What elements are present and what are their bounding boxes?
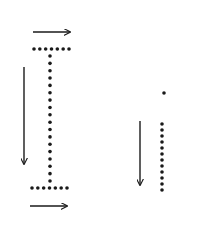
stem-dot [160,182,164,186]
stem-dot [48,98,52,102]
stem-dot [160,164,164,168]
top-bar-dot [67,47,71,51]
lowercase-i-letter [140,91,166,192]
stem-dot [48,172,52,176]
stroke-order-diagram [0,0,224,235]
uppercase-i-letter [24,32,71,206]
top-bar-dot [32,47,36,51]
stem-dot [160,122,164,126]
stem-dot [48,120,52,124]
stem-dot [48,69,52,73]
stem-dot [48,113,52,117]
stem-dot [160,158,164,162]
stem-dot [48,62,52,66]
stem-dot [160,170,164,174]
stem-dot [48,54,52,58]
stem-dot [48,135,52,139]
bottom-bar-dot [36,186,40,190]
top-bar-dot [38,47,42,51]
bottom-bar-dot [54,186,58,190]
stem-dot [160,140,164,144]
top-bar-dot [61,47,65,51]
stem-dot [160,134,164,138]
top-bar-dot [50,47,54,51]
bottom-bar-dot [65,186,69,190]
bottom-bar-dot [42,186,46,190]
bottom-bar-dot [30,186,34,190]
top-bar-dot [56,47,60,51]
stem-dot [48,84,52,88]
stem-dot [48,142,52,146]
stem-dot [48,106,52,110]
stem-dot [48,76,52,80]
bottom-bar-dot [59,186,63,190]
tittle-dot [162,91,166,95]
stem-dot [48,128,52,132]
stem-dot [160,146,164,150]
stem-dot [160,188,164,192]
top-bar-dot [44,47,48,51]
stem-dot [160,176,164,180]
bottom-bar-dot [48,186,52,190]
stem-dot [48,157,52,161]
stem-dot [160,128,164,132]
stem-dot [48,164,52,168]
stem-dot [48,150,52,154]
stem-dot [48,179,52,183]
stem-dot [48,91,52,95]
stem-dot [160,152,164,156]
